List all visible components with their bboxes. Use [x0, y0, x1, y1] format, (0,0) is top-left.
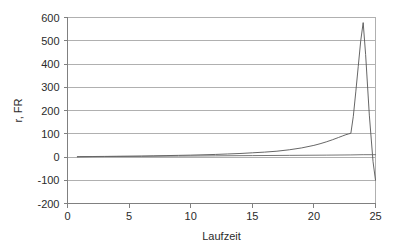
x-tick-label: 10	[185, 210, 197, 222]
x-tick-label: 15	[246, 210, 258, 222]
y-axis-title: r, FR	[12, 99, 24, 123]
y-tick-label: 300	[41, 81, 59, 93]
y-tick-label: 200	[41, 105, 59, 117]
x-tick-label: 25	[369, 210, 381, 222]
y-tick-label: 0	[53, 151, 59, 163]
y-tick-label: -200	[37, 198, 59, 210]
y-axis-tick-labels: -200-1000100200300400500600	[37, 12, 59, 210]
y-tick-label: 400	[41, 58, 59, 70]
x-tick-label: 20	[308, 210, 320, 222]
y-tick-label: 600	[41, 12, 59, 24]
x-tick-label: 5	[126, 210, 132, 222]
x-axis-title: Laufzeit	[202, 230, 241, 242]
y-tick-label: 100	[41, 128, 59, 140]
y-tick-label: -100	[37, 174, 59, 186]
x-tick-label: 0	[64, 210, 70, 222]
y-tick-label: 500	[41, 35, 59, 47]
chart-container: 0510152025 -200-1000100200300400500600 L…	[0, 0, 396, 252]
line-chart: 0510152025 -200-1000100200300400500600 L…	[0, 0, 396, 252]
